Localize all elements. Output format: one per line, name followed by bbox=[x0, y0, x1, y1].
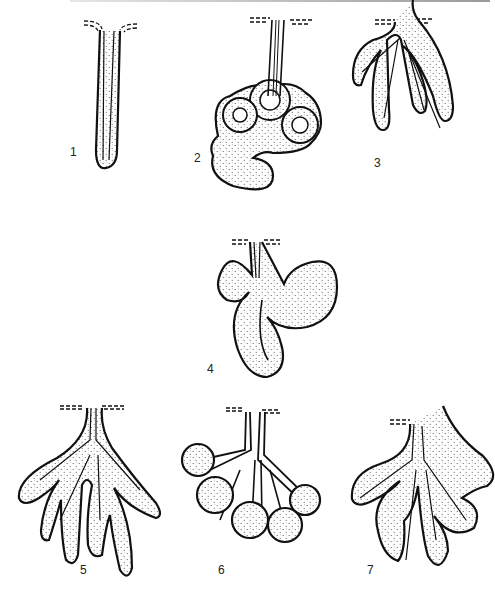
panel-label-1: 1 bbox=[70, 146, 77, 158]
panel-7-compound-tubuloacinar bbox=[352, 406, 493, 565]
panel-5-compound-tubular bbox=[19, 406, 160, 576]
panel-label-5: 5 bbox=[80, 564, 87, 576]
panel-label-2: 2 bbox=[194, 152, 201, 164]
panel-2-coiled-tubular bbox=[211, 18, 321, 189]
panel-label-3: 3 bbox=[374, 157, 381, 169]
gland-diagram bbox=[0, 0, 495, 607]
panel-3-branched-tubular bbox=[353, 0, 453, 130]
panel-label-6: 6 bbox=[218, 564, 225, 576]
panel-4-branched-acinar bbox=[218, 240, 337, 377]
panel-label-4: 4 bbox=[207, 363, 214, 375]
panel-6-compound-acinar bbox=[182, 408, 320, 542]
panel-label-7: 7 bbox=[367, 564, 374, 576]
panel-1-simple-tubular bbox=[84, 21, 137, 168]
